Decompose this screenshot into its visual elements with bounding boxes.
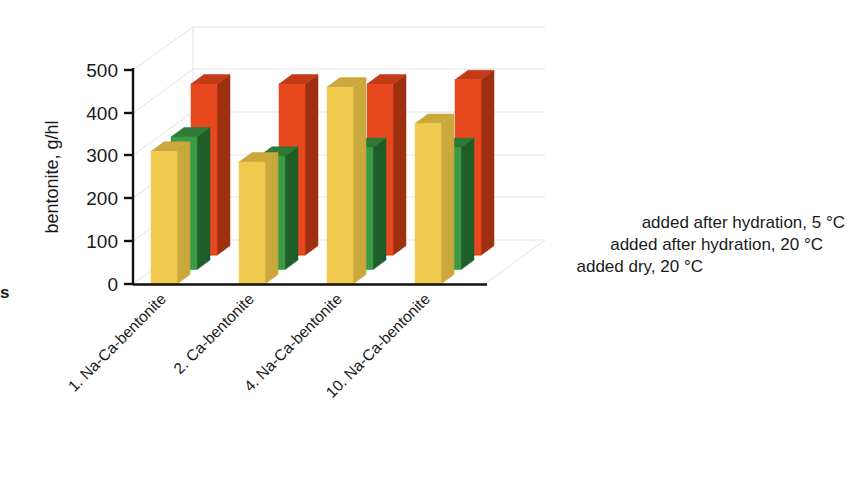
x-axis-category-label: 1. Na-Ca-bentonite: [64, 290, 169, 395]
bar-side-face: [373, 138, 386, 269]
bar-side-face: [393, 75, 406, 256]
y-axis-tick-labels: 500 400 300 200 100 0: [86, 60, 118, 295]
y-tick-label: 400: [86, 103, 118, 124]
y-tick-label: 200: [86, 188, 118, 209]
bar-side-face: [177, 142, 190, 284]
x-axis-category-labels: 1. Na-Ca-bentonite2. Ca-bentonite4. Na-C…: [64, 290, 433, 401]
bar-front-face: [415, 124, 441, 285]
bar-3d[interactable]: [415, 114, 454, 284]
y-tick-label: 100: [86, 231, 118, 252]
legend-item-label[interactable]: added after hydration, 5 °C: [642, 213, 845, 232]
bar-chart-3d: 500 400 300 200 100 0 bentonite, g/hl 1.…: [0, 0, 860, 477]
y-tick-label: 0: [107, 274, 118, 295]
y-tick-label: 500: [86, 60, 118, 81]
x-axis-category-label: 2. Ca-bentonite: [170, 290, 257, 377]
bar-front-face: [327, 87, 353, 284]
bar-side-face: [285, 147, 298, 270]
y-axis: [124, 68, 133, 285]
edge-text-fragment: s: [0, 283, 9, 302]
bar-side-face: [461, 138, 474, 269]
x-axis-category-label: 4. Na-Ca-bentonite: [240, 290, 345, 395]
bar-side-face: [305, 75, 318, 256]
bar-3d[interactable]: [239, 153, 278, 284]
bar-side-face: [441, 114, 454, 284]
legend-item-label[interactable]: added after hydration, 20 °C: [610, 235, 823, 254]
bar-side-face: [265, 153, 278, 284]
legend: added after hydration, 5 °C added after …: [576, 213, 845, 276]
bar-front-face: [239, 162, 265, 284]
bar-side-face: [353, 78, 366, 284]
y-tick-label: 300: [86, 145, 118, 166]
bar-side-face: [197, 127, 210, 269]
bar-3d[interactable]: [327, 78, 366, 284]
bar-side-face: [217, 75, 230, 256]
bar-3d[interactable]: [151, 142, 190, 284]
chart-figure: 500 400 300 200 100 0 bentonite, g/hl 1.…: [0, 0, 860, 477]
bar-front-face: [151, 151, 177, 284]
y-axis-title: bentonite, g/hl: [42, 120, 62, 233]
bars-layer: [151, 70, 494, 284]
legend-item-label[interactable]: added dry, 20 °C: [576, 257, 703, 276]
bar-side-face: [481, 70, 494, 255]
